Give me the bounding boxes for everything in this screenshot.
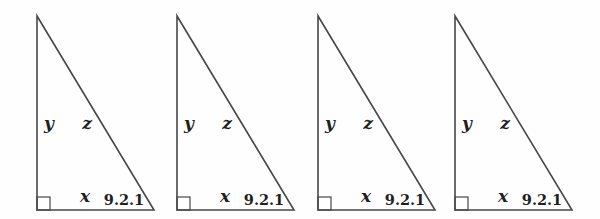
side-label-y: y <box>183 113 195 133</box>
right-angle-marker <box>177 197 190 210</box>
hypotenuse-label-z: z <box>499 113 510 133</box>
base-label-x: x <box>219 186 231 206</box>
base-label-x: x <box>79 186 91 206</box>
triangle-outline <box>37 16 154 210</box>
triangle-figure: y z x 9.2.1 <box>453 13 577 215</box>
hypotenuse-label-z: z <box>221 113 232 133</box>
triangle-svg: y z x 9.2.1 <box>316 13 440 215</box>
triangle-svg: y z x 9.2.1 <box>453 13 577 215</box>
right-angle-marker <box>318 197 331 210</box>
figure-number-label: 9.2.1 <box>104 191 144 208</box>
figure-number-label: 9.2.1 <box>522 191 562 208</box>
side-label-y: y <box>43 113 55 133</box>
triangle-svg: y z x 9.2.1 <box>35 13 159 215</box>
base-label-x: x <box>497 186 509 206</box>
triangle-outline <box>455 16 572 210</box>
right-angle-marker <box>455 197 468 210</box>
base-label-x: x <box>360 186 372 206</box>
figure-number-label: 9.2.1 <box>244 191 284 208</box>
triangle-svg: y z x 9.2.1 <box>175 13 299 215</box>
triangle-figure: y z x 9.2.1 <box>316 13 440 215</box>
triangle-outline <box>318 16 435 210</box>
hypotenuse-label-z: z <box>362 113 373 133</box>
triangle-figure: y z x 9.2.1 <box>175 13 299 215</box>
figure-canvas: y z x 9.2.1 y z x 9.2.1 y z x 9.2.1 <box>0 0 600 219</box>
triangle-figure: y z x 9.2.1 <box>35 13 159 215</box>
triangle-outline <box>177 16 294 210</box>
side-label-y: y <box>461 113 473 133</box>
figure-number-label: 9.2.1 <box>385 191 425 208</box>
side-label-y: y <box>324 113 336 133</box>
right-angle-marker <box>37 197 50 210</box>
hypotenuse-label-z: z <box>81 113 92 133</box>
